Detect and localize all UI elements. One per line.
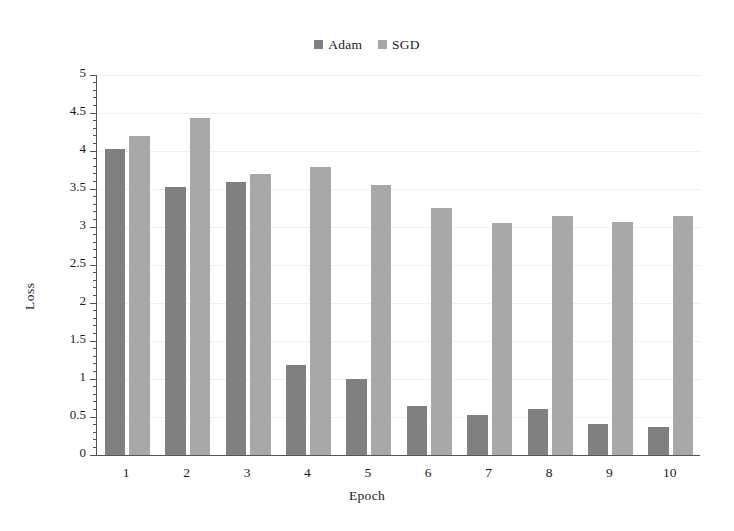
legend-swatch-icon [378,40,387,49]
y-axis: Loss 00.511.522.533.544.55 [0,75,96,457]
bar-adam-epoch-2 [165,187,186,455]
bar-sgd-epoch-2 [190,118,211,455]
bar-sgd-epoch-3 [250,174,271,455]
y-tick-label: 2.5 [70,256,86,269]
legend-label: Adam [328,38,362,52]
x-tick-label: 9 [606,465,613,481]
chart-legend: AdamSGD [0,38,734,52]
legend-entry-adam: Adam [314,38,362,52]
x-tick-label: 4 [304,465,311,481]
y-tick-label: 1.5 [70,332,86,345]
y-tick-label: 1 [80,370,87,383]
y-tick-label: 3 [80,218,87,231]
y-tick-label: 4.5 [70,104,86,117]
bar-sgd-epoch-9 [612,222,633,455]
bar-adam-epoch-7 [467,415,488,455]
x-axis-title: Epoch [0,488,734,504]
bar-sgd-epoch-5 [371,185,392,455]
bar-adam-epoch-10 [648,427,669,455]
bar-sgd-epoch-7 [492,223,513,455]
bar-sgd-epoch-6 [431,208,452,455]
x-tick-label: 8 [546,465,553,481]
bar-adam-epoch-9 [588,424,609,455]
y-axis-title: Loss [22,282,38,310]
bar-series-container [97,75,701,455]
legend-label: SGD [392,38,420,52]
bar-adam-epoch-6 [407,406,428,455]
x-tick-label: 10 [663,465,677,481]
bar-adam-epoch-1 [105,149,126,455]
x-tick-label: 7 [485,465,492,481]
bar-sgd-epoch-4 [310,167,331,455]
bar-adam-epoch-8 [528,409,549,455]
y-tick-label: 4 [80,142,87,155]
x-tick-label: 5 [364,465,371,481]
bar-chart-figure: AdamSGD Loss 00.511.522.533.544.55 12345… [0,0,734,531]
x-tick-label: 6 [425,465,432,481]
bar-adam-epoch-4 [286,365,307,455]
y-tick-label: 3.5 [70,180,86,193]
y-tick-label: 0.5 [70,408,86,421]
y-tick-label: 0 [80,446,87,459]
y-tick-label: 2 [80,294,87,307]
bar-sgd-epoch-1 [129,136,150,455]
x-tick-label: 2 [183,465,190,481]
bar-sgd-epoch-8 [552,216,573,455]
x-tick-label: 3 [244,465,251,481]
bar-adam-epoch-5 [346,379,367,455]
bar-sgd-epoch-10 [673,216,694,455]
plot-area [96,75,701,455]
legend-entry-sgd: SGD [378,38,420,52]
y-tick-label: 5 [80,66,87,79]
bar-adam-epoch-3 [226,182,247,455]
x-tick-label: 1 [123,465,130,481]
legend-swatch-icon [314,40,323,49]
